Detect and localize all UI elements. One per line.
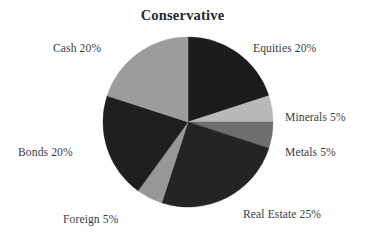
pie-label-foreign: Foreign 5% — [63, 213, 118, 226]
pie-label-equities: Equities 20% — [253, 42, 316, 55]
pie-label-metals: Metals 5% — [285, 146, 336, 159]
pie-chart-figure: Conservative Equities 20% Minerals 5% Me… — [0, 0, 365, 250]
pie-label-real-estate: Real Estate 25% — [243, 208, 321, 221]
pie-label-minerals: Minerals 5% — [285, 111, 346, 124]
pie-slice-group — [103, 37, 273, 207]
pie-label-cash: Cash 20% — [53, 42, 101, 55]
pie-label-bonds: Bonds 20% — [18, 146, 73, 159]
